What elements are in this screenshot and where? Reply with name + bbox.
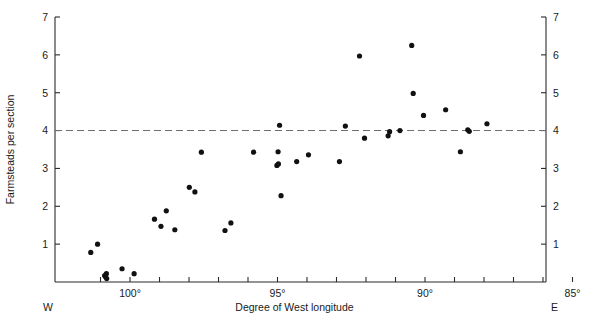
y-tick-label-left: 4	[42, 124, 48, 136]
data-point	[192, 189, 197, 194]
scatter-plot-svg: 11223344556677100°95°90°85°Degree of Wes…	[0, 0, 597, 322]
y-tick-label-left: 1	[42, 238, 48, 250]
data-points-group	[88, 43, 489, 281]
x-tick-label: 95°	[270, 287, 286, 299]
data-point	[409, 43, 414, 48]
y-tick-label-right: 4	[553, 124, 559, 136]
y-tick-label-left: 2	[42, 200, 48, 212]
data-point	[387, 129, 392, 134]
y-tick-label-right: 2	[553, 200, 559, 212]
data-point	[88, 250, 93, 255]
data-point	[172, 227, 177, 232]
data-point	[467, 129, 472, 134]
data-point	[411, 91, 416, 96]
x-axis-title: Degree of West longitude	[235, 301, 353, 313]
data-point	[152, 217, 157, 222]
y-tick-label-right: 3	[553, 162, 559, 174]
x-tick-label: 85°	[565, 287, 581, 299]
data-point	[158, 224, 163, 229]
data-point	[294, 159, 299, 164]
west-label: W	[43, 301, 53, 313]
axis-labels-group: 11223344556677100°95°90°85°Degree of Wes…	[4, 11, 580, 313]
y-tick-label-left: 5	[42, 87, 48, 99]
data-point	[187, 185, 192, 190]
y-tick-label-left: 6	[42, 49, 48, 61]
data-point	[484, 121, 489, 126]
data-point	[104, 276, 109, 281]
data-point	[443, 107, 448, 112]
data-point	[362, 136, 367, 141]
scatter-plot-panel: 11223344556677100°95°90°85°Degree of Wes…	[0, 0, 597, 322]
data-point	[421, 113, 426, 118]
x-tick-label: 90°	[417, 287, 433, 299]
data-point	[104, 271, 109, 276]
y-tick-label-left: 7	[42, 11, 48, 23]
x-tick-label: 100°	[119, 287, 141, 299]
data-point	[275, 149, 280, 154]
y-tick-label-left: 3	[42, 162, 48, 174]
data-point	[276, 161, 281, 166]
data-point	[222, 228, 227, 233]
data-point	[228, 220, 233, 225]
figure-root: 11223344556677100°95°90°85°Degree of Wes…	[0, 0, 597, 322]
data-point	[199, 150, 204, 155]
data-point	[357, 53, 362, 58]
data-point	[95, 242, 100, 247]
y-tick-label-right: 6	[553, 49, 559, 61]
data-point	[277, 123, 282, 128]
y-tick-label-right: 7	[553, 11, 559, 23]
data-point	[458, 149, 463, 154]
axes-group	[55, 17, 573, 282]
data-point	[119, 266, 124, 271]
data-point	[306, 152, 311, 157]
data-point	[132, 271, 137, 276]
y-tick-label-right: 1	[553, 238, 559, 250]
data-point	[343, 123, 348, 128]
data-point	[278, 193, 283, 198]
data-point	[337, 159, 342, 164]
data-point	[251, 150, 256, 155]
east-label: E	[551, 301, 558, 313]
y-axis-title: Farmsteads per section	[4, 94, 16, 204]
data-point	[397, 128, 402, 133]
data-point	[164, 208, 169, 213]
y-tick-label-right: 5	[553, 87, 559, 99]
